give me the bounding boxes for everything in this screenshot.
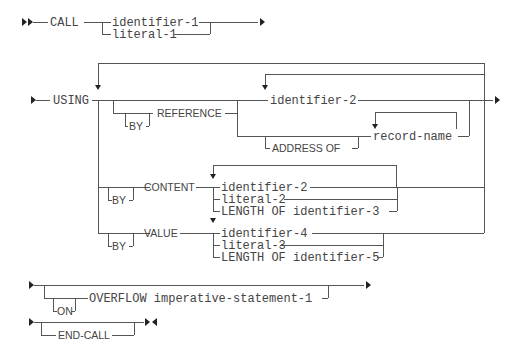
call-option-literal-1: literal-1 (112, 28, 177, 42)
content-by-keyword: BY (112, 194, 126, 206)
value-option-length-of-identifier-5: LENGTH OF identifier-5 (221, 251, 379, 265)
start-double-arrow-icon-2 (28, 18, 33, 26)
start-arrow-icon (29, 281, 34, 289)
start-double-arrow-icon (22, 18, 27, 26)
continue-arrow-icon (366, 281, 371, 289)
call-row: CALL identifier-1 literal-1 (22, 16, 265, 42)
repeat-arrow-icon (210, 174, 216, 179)
start-arrow-icon (29, 318, 34, 326)
continue-arrow-icon (495, 96, 500, 104)
repeat-arrow-icon (210, 218, 216, 223)
repeat-arrow-icon (95, 85, 101, 90)
end-call-row: END-CALL (29, 318, 157, 341)
address-of-keyword: ADDRESS OF (272, 142, 340, 154)
using-row: USING BY REFERENCE identifier-2 ADDRESS … (31, 63, 500, 265)
reference-identifier-2: identifier-2 (270, 94, 356, 108)
end-arrow-icon-2 (152, 318, 157, 326)
reference-keyword: REFERENCE (157, 107, 222, 119)
content-keyword: CONTENT (144, 181, 195, 193)
overflow-row: ON OVERFLOW imperative-statement-1 (29, 281, 371, 317)
value-keyword: VALUE (144, 227, 178, 239)
end-arrow-icon (145, 318, 150, 326)
continue-arrow-icon (260, 18, 265, 26)
start-arrow-icon (31, 96, 36, 104)
overflow-imperative-statement-1: OVERFLOW imperative-statement-1 (89, 292, 312, 306)
repeat-arrow-icon (262, 85, 268, 90)
record-name: record-name (373, 130, 452, 144)
on-keyword: ON (57, 305, 73, 317)
end-call-keyword: END-CALL (58, 329, 110, 341)
using-keyword: USING (53, 94, 89, 108)
reference-by-keyword: BY (129, 120, 143, 132)
call-keyword: CALL (50, 16, 79, 30)
content-option-length-of-identifier-3: LENGTH OF identifier-3 (221, 205, 379, 219)
repeat-arrow-icon (372, 124, 378, 129)
value-by-keyword: BY (112, 240, 126, 252)
call-syntax-diagram: CALL identifier-1 literal-1 USING BY REF… (0, 0, 527, 359)
